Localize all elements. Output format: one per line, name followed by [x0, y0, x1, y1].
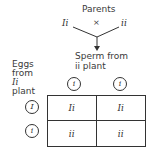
parent-left-genotype: Ii — [62, 18, 68, 28]
punnett-cell: Ii — [97, 96, 146, 121]
egg-allele-1: I — [25, 100, 39, 114]
sperm-allele-2: i — [113, 77, 127, 91]
punnett-cell: ii — [97, 121, 146, 146]
parent-right-genotype: ii — [121, 18, 127, 28]
punnett-cell: ii — [48, 121, 97, 146]
eggs-label: Eggs from Ii plant — [12, 60, 35, 96]
eggs-label-line4: plant — [12, 87, 35, 96]
parents-title: Parents — [82, 4, 116, 14]
sperm-allele-1: i — [67, 77, 81, 91]
egg-allele-2: i — [25, 124, 39, 138]
sperm-label-line1: Sperm from — [75, 51, 128, 61]
sperm-label-line2: ii plant — [75, 61, 106, 71]
punnett-cell: Ii — [48, 96, 97, 121]
cross-symbol: × — [93, 18, 100, 27]
punnett-square: Ii Ii ii ii — [47, 95, 146, 147]
